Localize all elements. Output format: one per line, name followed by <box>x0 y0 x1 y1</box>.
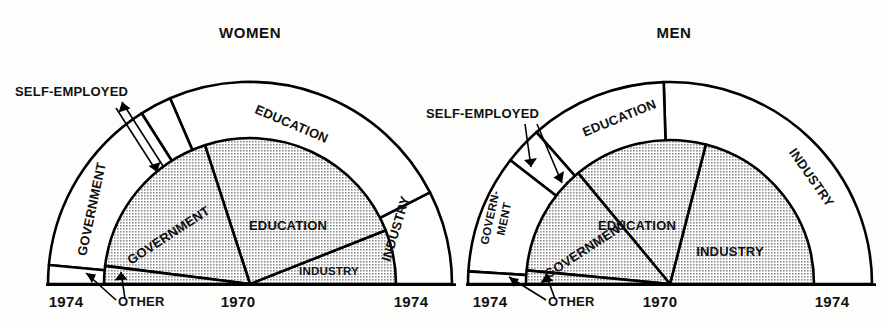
year-label-left-women: 1974 <box>49 293 84 310</box>
callout-self-employed-women: SELF-EMPLOYED <box>15 84 128 99</box>
inner-label-industry-women: INDUSTRY <box>299 265 359 277</box>
year-label-left-men: 1974 <box>473 293 508 310</box>
chart-title-women: WOMEN <box>219 24 281 41</box>
year-label-right-women: 1974 <box>394 293 429 310</box>
inner-label-education-women: EDUCATION <box>249 218 327 233</box>
year-label-right-men: 1974 <box>815 293 850 310</box>
year-label-center-women: 1970 <box>221 293 256 310</box>
callout-other-men: OTHER <box>548 294 595 309</box>
inner-label-industry-men: INDUSTRY <box>696 244 764 259</box>
chart-title-men: MEN <box>656 24 691 41</box>
year-label-center-men: 1970 <box>643 293 678 310</box>
figure-canvas: WOMEN EDUCATION INDUSTRY GOVERNMENT EDUC… <box>0 0 887 325</box>
callout-self-employed-men: SELF-EMPLOYED <box>426 106 539 121</box>
semicircle-pie-figure: WOMEN EDUCATION INDUSTRY GOVERNMENT EDUC… <box>0 0 887 325</box>
